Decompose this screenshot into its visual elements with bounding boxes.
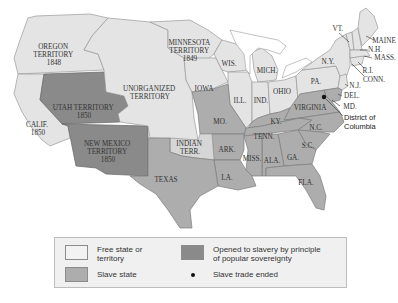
label-nh: N.H.: [368, 46, 382, 54]
label-pa: PA.: [311, 78, 322, 86]
region-michigan: [252, 48, 278, 82]
legend-label-slave: Slave state: [97, 270, 137, 279]
legend-swatch-popular-sovereignty: [181, 245, 204, 260]
label-nc: N.C.: [309, 124, 323, 132]
label-nj: N.J.: [349, 82, 361, 90]
label-vt: VT.: [333, 25, 344, 33]
legend-item-popular-sovereignty: Opened to slavery by principle of popula…: [181, 245, 321, 263]
label-mass: MASS.: [374, 54, 396, 62]
label-ri: R.I.: [363, 67, 374, 75]
label-indian: INDIAN TERR.: [176, 140, 203, 156]
label-sc: S.C.: [302, 142, 315, 150]
label-ky: KY.: [270, 118, 281, 126]
label-ohio: OHIO: [273, 88, 291, 96]
legend-label-free-line1: Free state or: [97, 245, 142, 254]
label-del: DEL.: [344, 92, 360, 100]
label-mich: MICH.: [257, 67, 278, 75]
legend-label-free-line2: territory: [97, 254, 142, 263]
label-ga: GA.: [287, 154, 299, 162]
label-virginia: VIRGINIA: [294, 104, 328, 112]
label-maine: MAINE: [372, 37, 396, 45]
label-miss: MISS.: [243, 155, 262, 163]
label-ny: N.Y.: [321, 58, 334, 66]
legend-label-popsov-line1: Opened to slavery by principle: [213, 245, 321, 254]
label-conn: CONN.: [363, 76, 385, 84]
label-ind: IND.: [254, 97, 269, 105]
label-ala: ALA.: [264, 157, 281, 165]
legend-label-popsov-line2: of popular sovereignty: [213, 254, 321, 263]
legend-dot-icon: [191, 273, 195, 277]
label-ill: ILL.: [234, 97, 247, 105]
legend-item-slave-trade: Slave trade ended: [181, 270, 278, 279]
label-md: MD.: [343, 103, 357, 111]
legend-label-slave-trade: Slave trade ended: [213, 270, 278, 279]
legend-swatch-slave: [65, 267, 88, 282]
slave-trade-ended-marker: [322, 95, 326, 99]
label-unorganized: UNORGANIZED TERRITORY: [123, 85, 177, 101]
map-legend: Free state or territory Opened to slaver…: [54, 237, 347, 288]
label-wis: WIS.: [222, 60, 237, 68]
region-florida: [266, 164, 326, 210]
legend-swatch-free: [65, 245, 88, 260]
label-iowa: IOWA: [195, 85, 215, 93]
label-texas: TEXAS: [154, 176, 177, 184]
label-tenn: TENN.: [254, 133, 275, 141]
label-fla: FLA.: [298, 179, 314, 187]
label-la: LA.: [221, 174, 233, 182]
label-mo: MO.: [213, 118, 227, 126]
legend-item-slave: Slave state: [65, 267, 137, 282]
label-ark: ARK.: [219, 146, 236, 154]
legend-item-free: Free state or territory: [65, 245, 142, 263]
label-district-of-columbia: District of Columbia: [344, 113, 377, 131]
